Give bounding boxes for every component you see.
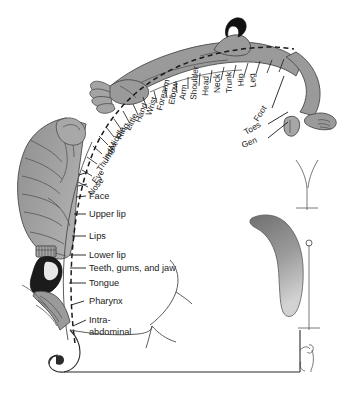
arc-label-trunk: Trunk [223, 71, 234, 93]
pharynx-brainstem [22, 285, 70, 330]
side-label-upper-lip: Upper lip [89, 209, 126, 219]
fanned-label-foot: Foot [251, 103, 269, 123]
side-label-group: Face Upper lip Lips Lower lip Teeth, gum… [89, 191, 176, 337]
arc-label-hip: Hip [235, 73, 246, 87]
side-label-face: Face [89, 191, 109, 201]
hair-tuft [225, 18, 246, 37]
arc-label-shoulder: Shoulder [188, 66, 200, 100]
arc-label-head: Head [200, 75, 211, 96]
side-label-pharynx: Pharynx [89, 296, 123, 306]
homunculus-diagram: Nose Eye Thumb Index Middle Ring Little … [0, 0, 349, 403]
side-label-teeth-gums-jaw: Teeth, gums, and jaw [89, 263, 176, 273]
arc-label-neck: Neck [212, 73, 222, 93]
side-label-lower-lip: Lower lip [89, 250, 126, 260]
side-label-lips: Lips [89, 231, 106, 241]
arc-label-arm: Arm [177, 84, 189, 100]
fanned-label-gen: Gen [240, 135, 259, 150]
genital-marker [284, 116, 300, 136]
teeth-icon [36, 246, 56, 257]
side-label-tongue: Tongue [89, 278, 119, 288]
side-label-intra: Intra- [89, 315, 110, 325]
limb-silhouette [250, 215, 303, 317]
tongue-shape [30, 257, 62, 296]
arc-label-leg: Leg [247, 73, 258, 88]
side-label-abdominal: abdominal [89, 327, 131, 337]
brainstem-outline [49, 330, 300, 372]
diagram-canvas: Nose Eye Thumb Index Middle Ring Little … [0, 0, 349, 403]
